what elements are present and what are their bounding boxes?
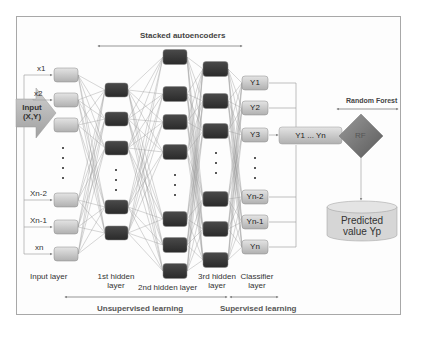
inp-node [54,93,78,107]
h1-node [105,83,128,97]
h3-node [203,192,228,207]
classifier-node-label: Yn [242,242,268,251]
classifier-node-label: Yn-2 [242,192,268,201]
h1-node [105,226,128,240]
layer-label-hidden1: 1st hiddenlayer [94,272,138,290]
layer-label-input: Input layer [30,272,67,281]
classifier-node-label: Yn-1 [242,217,268,226]
h2-node [163,212,187,227]
random-forest-title: Random Forest [346,97,397,104]
inp-node [54,247,78,261]
input-name-xn: xn [35,243,43,252]
h3-node [203,62,228,77]
input-name-x1: x1 [37,64,45,73]
input-label: Input(X,Y) [20,103,44,121]
h1-node [105,141,128,155]
supervised-learning-label: Supervised learning [220,304,296,313]
h1-node [105,200,128,214]
inp-node [54,118,78,132]
h2-node [163,87,187,102]
h2-node [163,238,187,253]
stacked-autoencoders-title: Stacked autoencoders [140,31,225,40]
layer-label-hidden3: 3rd hiddenlayer [197,272,237,290]
h2-node [163,115,187,130]
h2-node [163,145,187,160]
h2-node [163,50,187,65]
h3-node [203,124,228,139]
aggregate-node-label: Y1 ... Yn [279,131,342,140]
inp-node [54,68,78,82]
classifier-node-label: Y2 [242,103,268,112]
h2-node [163,264,187,279]
predicted-value-label: Predictedvalue Yp [327,215,397,237]
layer-label-classifier: Classifierlayer [240,272,274,290]
classifier-node-label: Y1 [242,78,268,87]
layer-label-hidden2: 2nd hidden layer [138,283,197,292]
h3-node [203,253,228,268]
unsupervised-learning-label: Unsupervised learning [97,304,183,313]
h1-node [105,112,128,126]
inp-node [54,220,78,234]
inp-node [54,193,78,207]
input-name-xn-2: Xn-2 [30,189,47,198]
rf-node-label: RF [355,131,366,140]
h3-node [203,94,228,109]
input-name-xn-1: Xn-1 [30,216,47,225]
classifier-node-label: Y3 [242,130,268,139]
input-name-x2: x2 [34,89,42,98]
connection-edges [78,57,242,271]
h3-node [203,222,228,237]
